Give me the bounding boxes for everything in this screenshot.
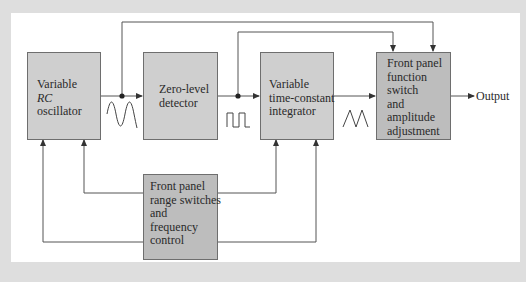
block-label: RC <box>37 92 100 106</box>
block-label: Variable <box>37 78 100 92</box>
block-label: Front panel <box>150 180 217 194</box>
connection-wires <box>0 0 526 282</box>
block-label: switch <box>387 84 450 98</box>
range-to-integrator-line-2 <box>217 140 316 242</box>
range-to-osc-line-2 <box>84 140 143 193</box>
junction-dot <box>119 93 124 98</box>
block-label: adjustment <box>387 125 450 139</box>
block-label: control <box>150 234 217 248</box>
block-label: Front panel <box>387 57 450 71</box>
block-label: Variable <box>269 78 333 92</box>
range-switches-block: Front panel range switches and frequency… <box>143 174 218 260</box>
block-label: and <box>150 207 217 221</box>
zero-level-detector-block: Zero-level detector <box>143 52 218 140</box>
block-label: range switches <box>150 194 217 208</box>
block-label: integrator <box>269 105 333 119</box>
junction-dot <box>235 93 240 98</box>
block-label: frequency <box>150 221 217 235</box>
triangle-wave-icon <box>343 110 368 127</box>
block-label: Zero-level <box>159 83 217 97</box>
range-to-osc-line-1 <box>43 140 143 242</box>
block-label: function <box>387 71 450 85</box>
block-label: and <box>387 98 450 112</box>
integrator-block: Variable time-constant integrator <box>260 52 334 140</box>
function-switch-block: Front panel function switch and amplitud… <box>376 52 451 140</box>
square-wave-icon <box>227 113 250 127</box>
block-label: time-constant <box>269 92 333 106</box>
block-label: amplitude <box>387 111 450 125</box>
output-label: Output <box>476 89 509 104</box>
rc-oscillator-block: Variable RC oscillator <box>27 52 101 140</box>
block-label: detector <box>159 97 217 111</box>
range-to-integrator-line-1 <box>217 140 276 193</box>
sine-wave-icon <box>107 102 137 128</box>
block-label: oscillator <box>37 105 100 119</box>
